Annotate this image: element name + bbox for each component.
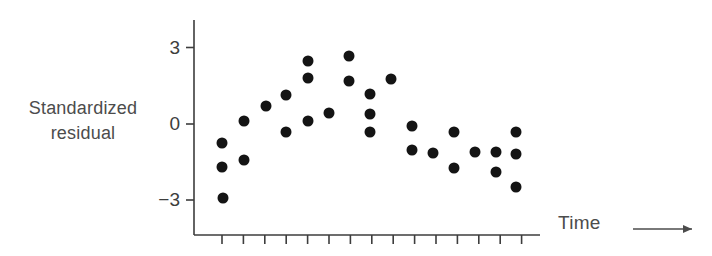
scatter-point: [217, 162, 228, 173]
scatter-point: [303, 56, 314, 67]
y-axis-tick-label: 0: [140, 113, 180, 135]
y-axis-tick-label: −3: [140, 189, 180, 211]
scatter-point: [344, 76, 355, 87]
scatter-point: [239, 155, 250, 166]
scatter-point: [239, 116, 250, 127]
scatter-point: [281, 90, 292, 101]
scatter-point: [407, 121, 418, 132]
scatter-point: [303, 116, 314, 127]
scatter-point: [217, 138, 228, 149]
scatter-point: [449, 127, 460, 138]
scatter-point: [470, 147, 481, 158]
time-direction-arrow-icon: [633, 225, 692, 233]
scatter-point: [386, 74, 397, 85]
scatter-point: [491, 167, 502, 178]
scatter-point: [303, 73, 314, 84]
scatter-point: [511, 149, 522, 160]
scatter-point: [428, 148, 439, 159]
scatter-point: [407, 145, 418, 156]
residual-plot-figure: Standardizedresidual 30−3 Time: [0, 0, 712, 256]
plot-area: [0, 0, 712, 256]
x-axis-ticks: [222, 235, 522, 244]
scatter-point: [218, 193, 229, 204]
scatter-point: [449, 163, 460, 174]
y-axis-tick-label: 3: [140, 37, 180, 59]
scatter-point: [281, 127, 292, 138]
scatter-point: [511, 182, 522, 193]
scatter-point: [324, 108, 335, 119]
scatter-point: [344, 51, 355, 62]
scatter-point: [261, 101, 272, 112]
scatter-point: [365, 127, 376, 138]
scatter-point: [491, 147, 502, 158]
y-axis-ticks: [186, 48, 194, 201]
scatter-point: [365, 89, 376, 100]
scatter-point: [365, 109, 376, 120]
x-axis-label: Time: [558, 212, 601, 234]
scatter-point: [511, 127, 522, 138]
